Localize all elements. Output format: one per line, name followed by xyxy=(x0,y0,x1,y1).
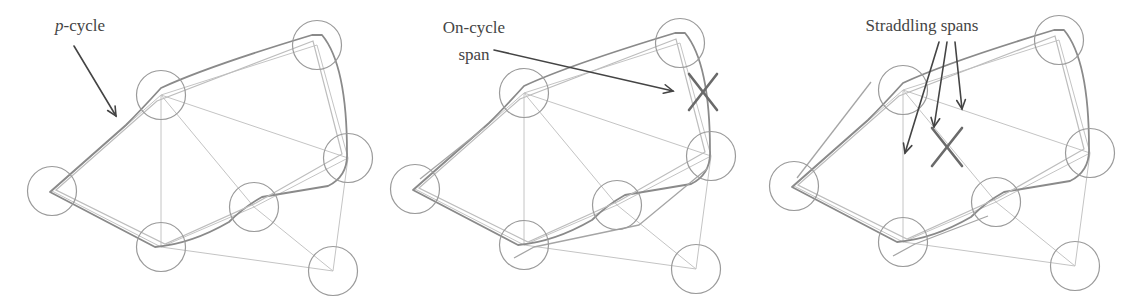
span-FA xyxy=(415,189,524,245)
panel-on-cycle-span: On-cyclespan xyxy=(391,18,736,294)
annotation-arrow xyxy=(494,50,673,91)
span-BE xyxy=(524,93,617,205)
span-CD xyxy=(317,45,348,158)
restoration-path xyxy=(893,216,988,256)
span-BD xyxy=(524,93,711,156)
p-cycle-diagram: p-cycleOn-cyclespanStraddling spans xyxy=(0,0,1132,307)
annotation-label: span xyxy=(458,45,490,64)
annotation-label: Straddling spans xyxy=(866,16,979,35)
p-cycle-path xyxy=(50,35,347,247)
span-BE xyxy=(161,95,254,207)
annotation-arrow xyxy=(955,42,962,109)
panel-p-cycle: p-cycle xyxy=(28,16,373,296)
span-BD xyxy=(161,95,348,158)
annotation-label: p-cycle xyxy=(54,16,105,35)
annotation-arrow xyxy=(905,42,939,153)
p-cycle-path xyxy=(792,30,1089,242)
annotation-arrow xyxy=(74,46,116,116)
span-BD xyxy=(903,90,1090,153)
panel-straddling-spans: Straddling spans xyxy=(770,16,1115,291)
span-BE xyxy=(903,90,996,202)
span-FA xyxy=(52,191,161,247)
restoration-path xyxy=(420,128,484,179)
span-FA xyxy=(794,186,903,242)
annotation-label: On-cycle xyxy=(443,18,505,37)
span-CD xyxy=(1059,40,1090,153)
annotation-arrow xyxy=(934,42,947,127)
span-CD xyxy=(680,43,711,156)
failure-x-icon xyxy=(932,128,962,166)
